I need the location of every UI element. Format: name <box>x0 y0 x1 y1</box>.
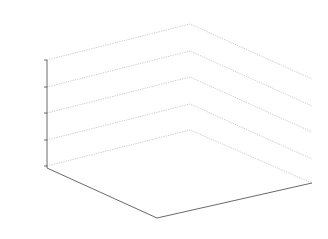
back-gridlines <box>47 24 312 183</box>
n-axis <box>47 168 157 218</box>
z-axis <box>44 60 47 168</box>
chart-svg <box>0 0 328 239</box>
chart-figure <box>0 0 328 239</box>
m-axis <box>157 183 312 218</box>
